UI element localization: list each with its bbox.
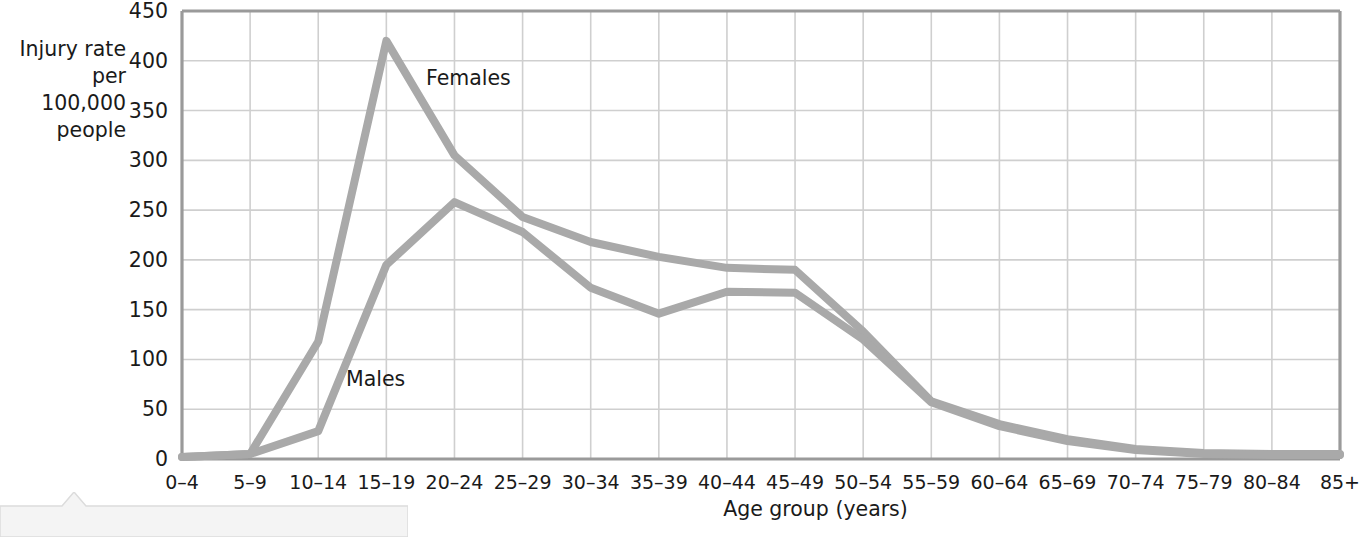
x-axis-tick-label: 5–9 xyxy=(233,471,267,493)
y-axis-tick-label: 400 xyxy=(110,49,168,73)
x-axis-tick-label: 15–19 xyxy=(357,471,415,493)
x-axis-title-text: Age group (years) xyxy=(723,497,908,521)
x-axis-tick-label: 10–14 xyxy=(289,471,347,493)
series-line-females xyxy=(182,41,1340,457)
y-axis-tick-label: 0 xyxy=(110,447,168,471)
x-axis-tick-label: 35–39 xyxy=(630,471,688,493)
x-axis-tick-label: 80–84 xyxy=(1243,471,1301,493)
x-axis-tick-label: 25–29 xyxy=(494,471,552,493)
x-axis-tick-label: 45–49 xyxy=(766,471,824,493)
x-axis-tick-label: 70–74 xyxy=(1107,471,1165,493)
x-axis-tick-label: 75–79 xyxy=(1175,471,1233,493)
callout-bubble-decoration xyxy=(0,492,408,537)
x-axis-tick-label: 20–24 xyxy=(426,471,484,493)
y-axis-tick-label: 100 xyxy=(110,347,168,371)
y-axis-tick-label: 250 xyxy=(110,198,168,222)
y-axis-tick-label: 50 xyxy=(110,397,168,421)
x-axis-tick-label: 30–34 xyxy=(562,471,620,493)
y-axis-tick-label: 350 xyxy=(110,99,168,123)
y-axis-tick-label: 300 xyxy=(110,148,168,172)
y-axis-tick-label: 150 xyxy=(110,298,168,322)
x-axis-tick-label: 85+ xyxy=(1320,471,1360,493)
y-axis-tick-label: 450 xyxy=(110,0,168,23)
x-axis-tick-label: 40–44 xyxy=(698,471,756,493)
x-axis-tick-label: 55–59 xyxy=(902,471,960,493)
series-label-females: Females xyxy=(426,66,511,90)
x-axis-tick-label: 65–69 xyxy=(1039,471,1097,493)
x-axis-tick-label: 50–54 xyxy=(834,471,892,493)
x-axis-tick-label: 0–4 xyxy=(165,471,199,493)
y-axis-tick-label: 200 xyxy=(110,248,168,272)
series-line-males xyxy=(182,202,1340,457)
series-label-males: Males xyxy=(346,367,405,391)
x-axis-tick-label: 60–64 xyxy=(970,471,1028,493)
